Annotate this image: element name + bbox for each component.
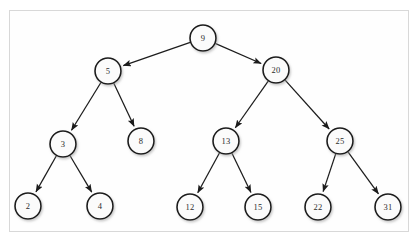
tree-node-15[interactable]: 15 bbox=[245, 194, 271, 220]
node-label-3: 3 bbox=[61, 139, 65, 149]
node-label-2: 2 bbox=[26, 201, 30, 211]
tree-node-5[interactable]: 5 bbox=[95, 58, 121, 84]
tree-node-31[interactable]: 31 bbox=[375, 194, 401, 220]
node-label-20: 20 bbox=[272, 65, 281, 75]
tree-node-2[interactable]: 2 bbox=[15, 193, 41, 219]
tree-edge-25-to-31 bbox=[347, 151, 378, 194]
tree-edge-13-to-15 bbox=[231, 152, 251, 193]
tree-node-3[interactable]: 3 bbox=[50, 131, 76, 157]
tree-edge-9-to-20 bbox=[214, 43, 261, 64]
tree-edge-20-to-13 bbox=[235, 80, 269, 128]
node-label-9: 9 bbox=[201, 33, 205, 43]
tree-graph: 95203813252412152231 bbox=[0, 0, 418, 243]
tree-node-4[interactable]: 4 bbox=[87, 193, 113, 219]
tree-node-8[interactable]: 8 bbox=[128, 128, 154, 154]
tree-node-22[interactable]: 22 bbox=[305, 194, 331, 220]
edges-layer bbox=[36, 42, 379, 194]
tree-edge-9-to-5 bbox=[123, 42, 191, 66]
nodes-layer: 95203813252412152231 bbox=[15, 25, 401, 220]
tree-edge-13-to-12 bbox=[198, 152, 220, 193]
node-label-5: 5 bbox=[106, 66, 110, 76]
node-label-31: 31 bbox=[384, 202, 393, 212]
node-label-15: 15 bbox=[254, 202, 263, 212]
node-label-8: 8 bbox=[139, 136, 143, 146]
node-label-4: 4 bbox=[98, 201, 103, 211]
tree-node-25[interactable]: 25 bbox=[327, 128, 353, 154]
tree-edge-25-to-22 bbox=[323, 152, 336, 191]
node-label-22: 22 bbox=[314, 202, 323, 212]
tree-edge-5-to-8 bbox=[113, 82, 134, 127]
node-label-25: 25 bbox=[336, 136, 345, 146]
tree-edge-3-to-4 bbox=[69, 154, 92, 192]
tree-edge-5-to-3 bbox=[72, 81, 102, 130]
tree-diagram-figure: 95203813252412152231 bbox=[0, 0, 418, 243]
node-label-12: 12 bbox=[186, 202, 195, 212]
tree-node-20[interactable]: 20 bbox=[263, 57, 289, 83]
tree-node-12[interactable]: 12 bbox=[177, 194, 203, 220]
tree-node-13[interactable]: 13 bbox=[213, 128, 239, 154]
tree-node-9[interactable]: 9 bbox=[190, 25, 216, 51]
tree-edge-20-to-25 bbox=[284, 79, 329, 129]
node-label-13: 13 bbox=[222, 136, 231, 146]
tree-edge-3-to-2 bbox=[36, 154, 57, 191]
